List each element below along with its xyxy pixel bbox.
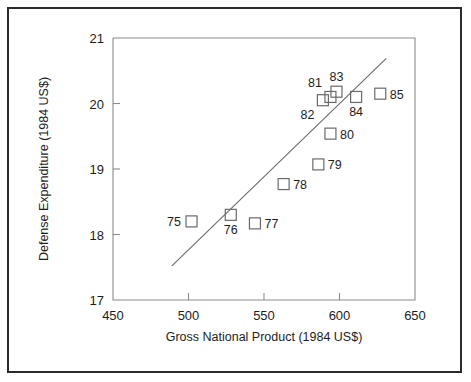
x-tick-label: 650	[404, 308, 426, 323]
x-tick-label: 450	[102, 308, 124, 323]
data-point-label: 83	[330, 70, 344, 84]
chart-svg: 1718192021450500550600650 75767778798081…	[0, 0, 471, 382]
data-point-label: 79	[328, 158, 342, 172]
x-tick-label: 500	[178, 308, 200, 323]
axes-group: 1718192021450500550600650	[90, 31, 426, 323]
data-point-marker[interactable]	[186, 216, 197, 227]
y-tick-label: 19	[90, 162, 104, 177]
regression-line	[172, 58, 386, 266]
x-axis-title: Gross National Product (1984 US$)	[166, 330, 363, 344]
data-point-label: 77	[264, 217, 278, 231]
data-point-label: 80	[340, 128, 354, 142]
plot-area-border	[113, 38, 415, 300]
data-point-marker[interactable]	[313, 159, 324, 170]
data-point-label: 82	[300, 108, 314, 122]
y-tick-label: 18	[90, 228, 104, 243]
y-tick-label: 17	[90, 293, 104, 308]
data-point-label: 75	[167, 215, 181, 229]
data-point-marker[interactable]	[225, 209, 236, 220]
trendline-group	[172, 58, 386, 266]
data-point-label: 84	[349, 105, 363, 119]
data-point-label: 78	[293, 178, 307, 192]
y-tick-label: 20	[90, 97, 104, 112]
data-point-marker[interactable]	[317, 95, 328, 106]
y-tick-label: 21	[90, 31, 104, 46]
x-tick-label: 550	[253, 308, 275, 323]
data-points-group: 7576777879808182838485	[167, 70, 404, 237]
data-point-label: 81	[308, 76, 322, 90]
data-point-label: 76	[224, 223, 238, 237]
data-point-marker[interactable]	[249, 218, 260, 229]
data-point-label: 85	[390, 88, 404, 102]
scatter-chart: 1718192021450500550600650 75767778798081…	[0, 0, 471, 382]
x-tick-label: 600	[329, 308, 351, 323]
data-point-marker[interactable]	[351, 91, 362, 102]
data-point-marker[interactable]	[375, 88, 386, 99]
y-axis-title: Defense Expenditure (1984 US$)	[37, 77, 51, 261]
data-point-marker[interactable]	[325, 128, 336, 139]
data-point-marker[interactable]	[278, 179, 289, 190]
